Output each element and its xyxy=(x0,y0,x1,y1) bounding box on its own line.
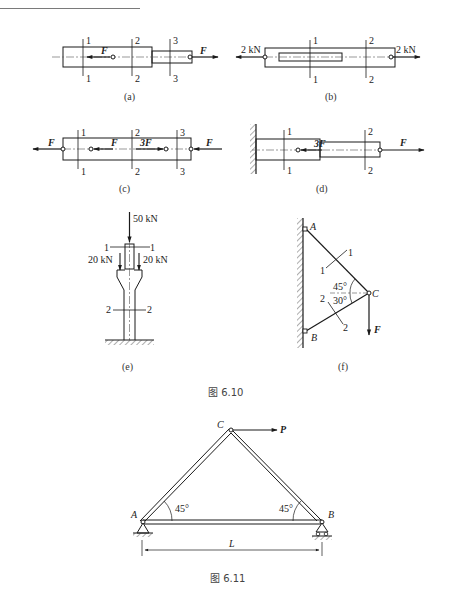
a-section-2-bottom: 2 xyxy=(135,73,140,84)
b-section-2-top: 2 xyxy=(369,35,374,46)
e-label: (e) xyxy=(122,361,133,373)
diagram-c: 1 1 2 2 3 3 F F 3F F (c) xyxy=(33,127,222,195)
a-label: (a) xyxy=(124,91,135,103)
c-force-internal-3f: 3F xyxy=(139,137,152,148)
a-force-end: F xyxy=(199,45,207,56)
diagram-e: 50 kN 1 1 20 kN 20 kN 2 2 (e) xyxy=(88,212,168,373)
b-section-2-bottom: 2 xyxy=(369,74,374,85)
b-section-1-top: 1 xyxy=(313,35,318,46)
e-force-20kn-left: 20 kN xyxy=(88,254,113,265)
d-force-f: F xyxy=(399,137,407,148)
d-section-1-top: 1 xyxy=(287,126,292,137)
d-force-3f: 3F xyxy=(313,138,326,149)
truss-point-c: C xyxy=(217,419,224,430)
f-angle-45: 45° xyxy=(333,281,347,292)
d-section-2-top: 2 xyxy=(368,126,373,137)
a-section-2-top: 2 xyxy=(135,35,140,46)
f-section-2-b: 2 xyxy=(343,322,348,333)
diagram-f: A B C 45° 30° 1 1 2 2 F (f) xyxy=(297,218,381,373)
c-section-2-bottom: 2 xyxy=(135,166,140,177)
e-section-1-right: 1 xyxy=(150,242,155,253)
figure-6-11-caption: 图 6.11 xyxy=(210,573,245,584)
a-section-3-bottom: 3 xyxy=(173,73,178,84)
c-section-3-top: 3 xyxy=(180,127,185,138)
e-force-20kn-right: 20 kN xyxy=(143,254,168,265)
b-force-right: 2 kN xyxy=(396,44,416,55)
c-force-left-end: F xyxy=(47,137,55,148)
d-label: (d) xyxy=(316,183,328,195)
e-section-1-left: 1 xyxy=(104,242,109,253)
e-force-50kn: 50 kN xyxy=(133,213,158,224)
d-section-1-bottom: 1 xyxy=(287,165,292,176)
truss-span-l: L xyxy=(228,538,235,549)
truss-angle-a: 45° xyxy=(175,503,189,514)
f-force-f: F xyxy=(373,324,381,335)
f-label: (f) xyxy=(338,361,348,373)
e-section-2-right: 2 xyxy=(147,304,152,315)
f-point-c: C xyxy=(372,288,379,299)
c-label: (c) xyxy=(119,183,130,195)
truss-force-p: P xyxy=(280,424,287,435)
diagram-b: 1 1 2 2 2 kN 2 kN (b) xyxy=(236,35,420,103)
f-section-1-a: 1 xyxy=(348,247,353,258)
a-section-3-top: 3 xyxy=(173,35,178,46)
d-section-2-bottom: 2 xyxy=(368,165,373,176)
f-point-a: A xyxy=(309,221,317,232)
a-section-1-top: 1 xyxy=(86,35,91,46)
f-point-b: B xyxy=(311,332,317,343)
c-force-internal-left: F xyxy=(110,137,118,148)
c-section-3-bottom: 3 xyxy=(180,166,185,177)
f-section-1-b: 1 xyxy=(320,265,325,276)
figure-6-10-caption: 图 6.10 xyxy=(208,387,243,398)
c-section-1-bottom: 1 xyxy=(81,166,86,177)
b-section-1-bottom: 1 xyxy=(313,74,318,85)
figures-canvas: 1 1 2 2 3 3 F F (a) 1 1 2 2 2 kN 2 kN (b… xyxy=(0,0,449,602)
diagram-d: 1 1 2 2 3F F (d) xyxy=(250,124,424,195)
truss-figure: C P 45° 45° A B L xyxy=(130,419,334,556)
diagram-a: 1 1 2 2 3 3 F F (a) xyxy=(52,35,218,103)
b-label: (b) xyxy=(325,91,337,103)
a-section-1-bottom: 1 xyxy=(86,73,91,84)
b-force-left: 2 kN xyxy=(241,44,261,55)
e-section-2-left: 2 xyxy=(106,304,111,315)
truss-point-b: B xyxy=(328,509,334,520)
c-section-1-top: 1 xyxy=(81,127,86,138)
truss-point-a: A xyxy=(130,509,138,520)
a-force-internal: F xyxy=(100,45,108,56)
c-force-right-end: F xyxy=(205,137,213,148)
f-section-2-a: 2 xyxy=(320,293,325,304)
f-angle-30: 30° xyxy=(333,295,347,306)
truss-angle-b: 45° xyxy=(279,503,293,514)
